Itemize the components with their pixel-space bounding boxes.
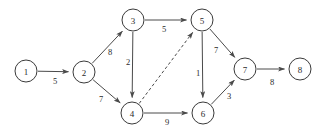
edge-2-to-4 bbox=[93, 80, 120, 103]
edge-3-to-4 bbox=[132, 32, 133, 98]
edge-weight-4-6: 9 bbox=[165, 117, 169, 127]
edge-5-to-6 bbox=[202, 32, 203, 98]
edge-weight-3-4: 2 bbox=[126, 57, 130, 67]
edge-weight-1-2: 5 bbox=[53, 76, 57, 86]
node-label-2: 2 bbox=[82, 68, 87, 78]
node-5[interactable]: 5 bbox=[191, 9, 213, 31]
node-8[interactable]: 8 bbox=[289, 58, 311, 80]
edge-weight-3-5: 5 bbox=[162, 24, 166, 34]
node-4[interactable]: 4 bbox=[121, 102, 143, 124]
edge-weight-6-7: 3 bbox=[227, 91, 231, 101]
edge-1-to-2 bbox=[38, 71, 69, 72]
node-label-6: 6 bbox=[201, 109, 206, 119]
node-6[interactable]: 6 bbox=[192, 102, 214, 124]
edge-weight-5-7: 7 bbox=[214, 45, 218, 55]
edge-weight-2-3: 8 bbox=[108, 47, 112, 57]
node-3[interactable]: 3 bbox=[122, 9, 144, 31]
node-label-8: 8 bbox=[298, 65, 303, 75]
edge-weight-7-8: 8 bbox=[270, 77, 274, 87]
node-label-5: 5 bbox=[200, 16, 205, 26]
edge-4-to-5 bbox=[139, 32, 192, 103]
node-label-3: 3 bbox=[131, 16, 136, 26]
network-diagram: 5875291738 12345678 bbox=[0, 0, 323, 133]
node-1[interactable]: 1 bbox=[15, 60, 37, 82]
node-label-1: 1 bbox=[24, 67, 29, 77]
edge-weight-2-4: 7 bbox=[99, 94, 103, 104]
node-label-7: 7 bbox=[243, 65, 248, 75]
node-7[interactable]: 7 bbox=[234, 58, 256, 80]
edge-weight-5-6: 1 bbox=[196, 68, 200, 78]
node-label-4: 4 bbox=[130, 109, 135, 119]
graph-canvas: 5875291738 12345678 bbox=[0, 0, 323, 133]
node-2[interactable]: 2 bbox=[73, 61, 95, 83]
